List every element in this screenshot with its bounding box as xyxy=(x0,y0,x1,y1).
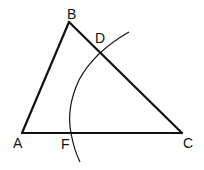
label-d: D xyxy=(95,30,105,46)
triangle-diagram: B D A F C xyxy=(0,0,204,170)
segment-bc xyxy=(69,22,182,133)
label-b: B xyxy=(67,6,76,22)
segment-ab xyxy=(22,22,69,133)
label-a: A xyxy=(13,135,23,151)
label-f: F xyxy=(61,136,70,152)
label-c: C xyxy=(183,135,193,151)
diagram-svg: B D A F C xyxy=(0,0,204,170)
